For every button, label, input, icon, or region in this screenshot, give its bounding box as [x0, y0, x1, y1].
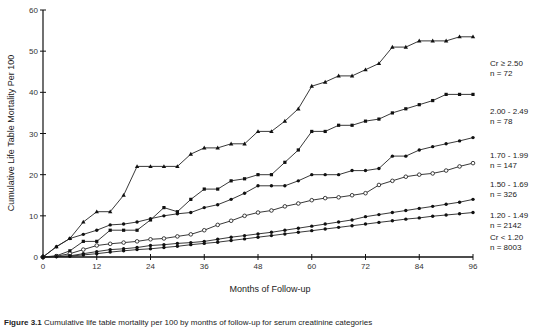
- figure-caption: Figure 3.1 Cumulative life table mortali…: [4, 318, 372, 327]
- filled-circle-marker-icon: [377, 167, 380, 170]
- filled-circle-marker-icon: [458, 212, 461, 215]
- legend-label: Cr < 1.20: [490, 233, 524, 242]
- square-marker-icon: [82, 240, 85, 243]
- x-tick-label: 0: [41, 262, 46, 271]
- x-tick-label: 48: [254, 262, 263, 271]
- triangle-marker-icon: [121, 193, 125, 197]
- legend-label: 1.70 - 1.99: [490, 151, 529, 160]
- filled-circle-marker-icon: [270, 184, 273, 187]
- square-marker-icon: [458, 93, 461, 96]
- open-circle-marker-icon: [202, 228, 206, 232]
- open-circle-marker-icon: [243, 214, 247, 218]
- open-circle-marker-icon: [297, 202, 301, 206]
- square-marker-icon: [471, 93, 474, 96]
- open-circle-marker-icon: [216, 223, 220, 227]
- filled-circle-marker-icon: [256, 184, 259, 187]
- square-marker-icon: [324, 130, 327, 133]
- open-circle-marker-icon: [337, 196, 341, 200]
- square-marker-icon: [162, 206, 165, 209]
- filled-circle-marker-icon: [229, 239, 232, 242]
- open-circle-marker-icon: [135, 240, 139, 244]
- legend-n: n = 147: [490, 161, 517, 170]
- square-marker-icon: [203, 187, 206, 190]
- square-marker-icon: [377, 117, 380, 120]
- filled-circle-marker-icon: [229, 236, 232, 239]
- open-circle-marker-icon: [108, 242, 112, 246]
- filled-circle-marker-icon: [431, 205, 434, 208]
- filled-circle-marker-icon: [323, 173, 326, 176]
- open-circle-marker-icon: [471, 161, 475, 165]
- filled-circle-marker-icon: [377, 221, 380, 224]
- x-tick-label: 60: [307, 262, 316, 271]
- filled-circle-marker-icon: [310, 229, 313, 232]
- legend-label: 2.00 - 2.49: [490, 107, 529, 116]
- filled-circle-marker-icon: [418, 216, 421, 219]
- open-circle-marker-icon: [444, 169, 448, 173]
- line-chart: 012243648607284960102030405060 Cr ≥ 2.50…: [0, 0, 535, 329]
- square-marker-icon: [135, 229, 138, 232]
- legend-label: Cr ≥ 2.50: [490, 59, 523, 68]
- square-marker-icon: [256, 173, 259, 176]
- square-marker-icon: [243, 177, 246, 180]
- filled-circle-marker-icon: [149, 217, 152, 220]
- filled-circle-marker-icon: [55, 255, 58, 258]
- filled-circle-marker-icon: [243, 237, 246, 240]
- filled-circle-marker-icon: [122, 222, 125, 225]
- figure-caption-label: Figure 3.1: [4, 318, 42, 327]
- filled-circle-marker-icon: [270, 234, 273, 237]
- open-circle-marker-icon: [377, 183, 381, 187]
- filled-circle-marker-icon: [418, 148, 421, 151]
- filled-circle-marker-icon: [364, 222, 367, 225]
- filled-circle-marker-icon: [337, 220, 340, 223]
- open-circle-marker-icon: [229, 219, 233, 223]
- filled-circle-marker-icon: [243, 191, 246, 194]
- x-tick-label: 36: [200, 262, 209, 271]
- open-circle-marker-icon: [364, 191, 368, 195]
- filled-circle-marker-icon: [256, 236, 259, 239]
- filled-circle-marker-icon: [471, 198, 474, 201]
- square-marker-icon: [445, 93, 448, 96]
- x-tick-label: 72: [361, 262, 370, 271]
- square-marker-icon: [109, 229, 112, 232]
- open-circle-marker-icon: [283, 205, 287, 209]
- legend: Cr ≥ 2.50n = 722.00 - 2.49n = 781.70 - 1…: [490, 59, 529, 252]
- filled-circle-marker-icon: [203, 206, 206, 209]
- filled-circle-marker-icon: [444, 203, 447, 206]
- filled-circle-marker-icon: [404, 209, 407, 212]
- filled-circle-marker-icon: [297, 231, 300, 234]
- square-marker-icon: [418, 103, 421, 106]
- filled-circle-marker-icon: [404, 154, 407, 157]
- open-circle-marker-icon: [270, 209, 274, 213]
- legend-n: n = 72: [490, 69, 513, 78]
- filled-circle-marker-icon: [41, 255, 44, 258]
- square-marker-icon: [95, 240, 98, 243]
- square-marker-icon: [391, 111, 394, 114]
- open-circle-marker-icon: [176, 235, 180, 239]
- filled-circle-marker-icon: [95, 229, 98, 232]
- triangle-marker-icon: [296, 107, 300, 111]
- square-marker-icon: [404, 107, 407, 110]
- y-tick-label: 50: [29, 47, 38, 56]
- square-marker-icon: [230, 179, 233, 182]
- square-marker-icon: [216, 187, 219, 190]
- filled-circle-marker-icon: [350, 169, 353, 172]
- filled-circle-marker-icon: [391, 154, 394, 157]
- y-tick-label: 0: [34, 253, 39, 262]
- filled-circle-marker-icon: [323, 227, 326, 230]
- filled-circle-marker-icon: [323, 222, 326, 225]
- square-marker-icon: [189, 198, 192, 201]
- filled-circle-marker-icon: [350, 224, 353, 227]
- series-group: [41, 34, 475, 258]
- y-tick-label: 10: [29, 212, 38, 221]
- filled-circle-marker-icon: [216, 240, 219, 243]
- open-circle-marker-icon: [417, 173, 421, 177]
- filled-circle-marker-icon: [122, 249, 125, 252]
- filled-circle-marker-icon: [216, 203, 219, 206]
- filled-circle-marker-icon: [337, 173, 340, 176]
- filled-circle-marker-icon: [283, 232, 286, 235]
- legend-label: 1.20 - 1.49: [490, 211, 529, 220]
- filled-circle-marker-icon: [431, 145, 434, 148]
- open-circle-marker-icon: [122, 241, 126, 245]
- square-marker-icon: [122, 229, 125, 232]
- filled-circle-marker-icon: [458, 201, 461, 204]
